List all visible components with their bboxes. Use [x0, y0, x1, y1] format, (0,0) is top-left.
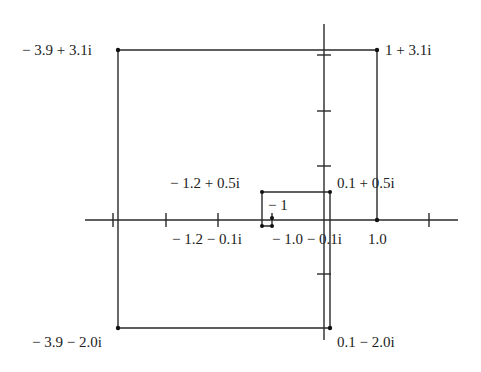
label-mid-top-right: 0.1 + 0.5i: [337, 176, 395, 191]
label-top-left: − 3.9 + 3.1i: [22, 43, 92, 58]
label-mid-bottom-right: − 1.0 − 0.1i: [272, 232, 342, 247]
label-minus-one: − 1: [268, 198, 288, 213]
label-mid-top-left: − 1.2 + 0.5i: [170, 176, 240, 191]
large-rectangle: [118, 50, 377, 220]
label-top-right: 1 + 3.1i: [385, 43, 431, 58]
label-bottom-right: 0.1 − 2.0i: [337, 335, 395, 350]
label-mid-bottom-left: − 1.2 − 0.1i: [172, 232, 242, 247]
label-bottom-left: − 3.9 − 2.0i: [32, 335, 102, 350]
label-one: 1.0: [368, 232, 387, 247]
